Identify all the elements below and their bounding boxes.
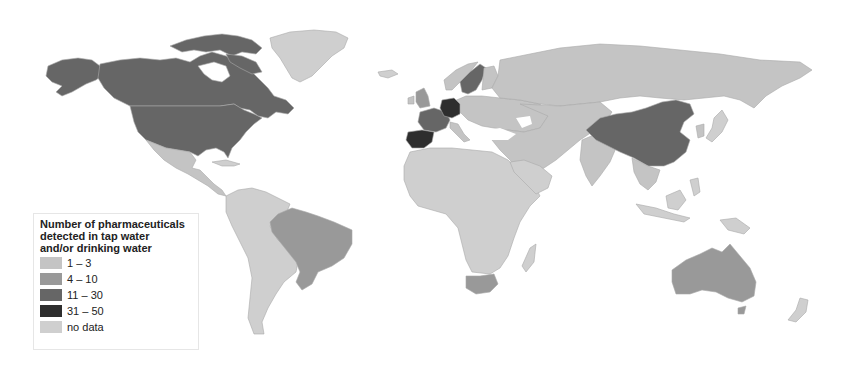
legend-title-line-3: and/or drinking water [40, 242, 192, 254]
legend-item-31-50: 31 – 50 [40, 303, 192, 318]
region-cuba [212, 160, 240, 166]
region-uk [416, 88, 430, 108]
region-new-zealand [788, 298, 808, 322]
legend-item-11-30: 11 – 30 [40, 287, 192, 302]
legend-swatch [40, 273, 62, 285]
legend-swatch [40, 257, 62, 269]
legend-title: Number of pharmaceuticals detected in ta… [40, 218, 192, 254]
region-russia [492, 44, 812, 108]
legend-label: 4 – 10 [67, 273, 98, 285]
map-legend: Number of pharmaceuticals detected in ta… [33, 213, 199, 350]
legend-item-4-10: 4 – 10 [40, 271, 192, 286]
legend-item-no-data: no data [40, 319, 192, 334]
region-iceland [378, 70, 398, 78]
legend-label: 11 – 30 [67, 289, 103, 301]
region-japan [706, 110, 728, 142]
region-philippines [690, 178, 700, 196]
legend-item-1-3: 1 – 3 [40, 255, 192, 270]
legend-label: no data [67, 321, 104, 333]
region-borneo [666, 190, 686, 210]
region-usa [130, 104, 262, 158]
region-greenland [270, 30, 348, 82]
legend-label: 1 – 3 [67, 257, 91, 269]
legend-label: 31 – 50 [67, 305, 104, 317]
legend-title-line-2: detected in tap water [40, 230, 192, 242]
region-indonesia [636, 204, 690, 222]
region-madagascar [522, 244, 536, 272]
legend-swatch [40, 321, 62, 333]
region-spain [406, 130, 434, 148]
region-new-guinea [720, 218, 750, 234]
region-ireland [408, 96, 414, 104]
region-italy [450, 122, 470, 142]
region-korea [696, 124, 704, 138]
region-tasmania [738, 306, 746, 314]
region-south-africa [466, 274, 498, 294]
region-canada-arctic [170, 34, 262, 56]
legend-title-line-1: Number of pharmaceuticals [40, 218, 192, 230]
legend-swatch [40, 289, 62, 301]
region-alaska [46, 58, 104, 96]
region-australia [672, 244, 756, 302]
legend-swatch [40, 305, 62, 317]
